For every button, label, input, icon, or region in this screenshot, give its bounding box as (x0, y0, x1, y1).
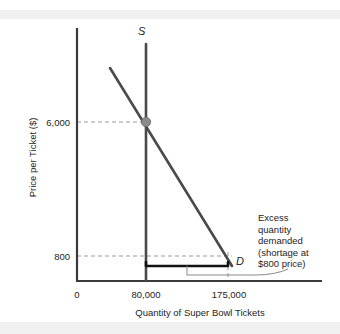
excess-quantity-demanded-annotation: Excess quantity demanded (shortage at $8… (258, 212, 338, 270)
demand-curve-label: D (236, 256, 244, 267)
annotation-line-5: $800 price) (258, 258, 338, 270)
annotation-line-1: Excess (258, 212, 338, 224)
y-tick-label-800: 800 (38, 251, 70, 262)
shortage-bracket (146, 262, 228, 266)
annotation-line-3: demanded (258, 235, 338, 247)
x-tick-label-175000: 175,000 (198, 289, 260, 300)
chart-plot-area (0, 0, 340, 334)
y-tick-label-6000: 6,000 (38, 117, 70, 128)
x-axis-title: Quantity of Super Bowl Tickets (80, 307, 320, 318)
annotation-line-2: quantity (258, 224, 338, 236)
annotation-line-4: (shortage at (258, 247, 338, 259)
x-tick-label-80000: 80,000 (118, 289, 174, 300)
demand-curve (110, 68, 232, 266)
supply-curve-label: S (138, 26, 145, 37)
y-axis-title: Price per Ticket ($) (27, 98, 38, 218)
supply-demand-chart-figure: Price per Ticket ($) 6,000 800 0 80,000 … (0, 0, 340, 334)
equilibrium-point-marker (141, 117, 150, 126)
x-tick-label-0: 0 (62, 289, 92, 300)
